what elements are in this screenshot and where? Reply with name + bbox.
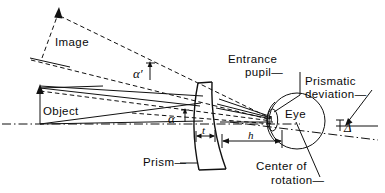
center-of-rotation-label-line2: rotation— xyxy=(271,174,325,186)
distance-label: h xyxy=(248,129,254,141)
alpha-prime-label: α′ xyxy=(133,66,143,81)
prism-label: Prism— xyxy=(143,156,186,168)
prism-eye-diagram: α′ α t h Eye Δ xyxy=(0,0,385,193)
t-arrow-right xyxy=(210,134,216,139)
diagram-canvas: α′ α t h Eye Δ xyxy=(0,0,385,193)
image-plane-tick xyxy=(30,58,70,67)
prismatic-deviation-label-line1: Prismatic xyxy=(305,75,356,87)
h-arrow-left xyxy=(222,138,229,144)
entrance-pupil-label-line1: Entrance xyxy=(228,53,277,65)
object-arrow-head xyxy=(36,84,44,94)
entrance-pupil-label-line2: pupil— xyxy=(245,66,283,78)
prism-bottom-edge xyxy=(199,169,226,170)
image-label: Image xyxy=(55,36,89,48)
prismatic-deviation-label-line2: deviation— xyxy=(305,88,367,100)
entrance-pupil-leader xyxy=(274,72,300,112)
object-label: Object xyxy=(43,105,79,117)
alpha-arrowhead xyxy=(183,108,187,114)
center-of-rotation-label-line1: Center of xyxy=(256,160,307,172)
prism-top-edge xyxy=(198,82,212,83)
alpha-prime-arrowhead xyxy=(148,61,153,67)
thickness-label: t xyxy=(202,124,206,136)
undeviated-ray-image-tip xyxy=(60,16,270,118)
t-arrow-left xyxy=(196,134,202,139)
alpha-label: α xyxy=(168,111,176,126)
eye-label: Eye xyxy=(285,108,306,120)
